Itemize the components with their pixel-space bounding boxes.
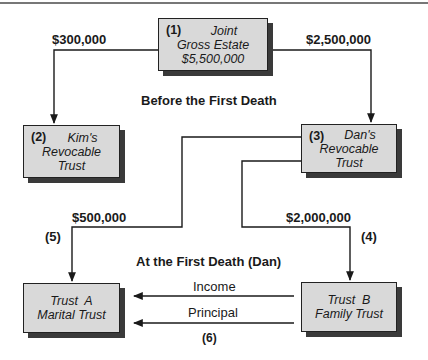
section-before-first-death: Before the First Death (141, 93, 277, 108)
edge-joint-to-dan (268, 50, 371, 122)
node-number: (1) (166, 23, 181, 37)
node-trust-b-family: Trust B Family Trust (301, 282, 397, 332)
amount-300000: $300,000 (52, 32, 106, 47)
principal-label: Principal (188, 305, 238, 320)
step-4: (4) (361, 229, 377, 244)
amount-500000: $500,000 (72, 210, 126, 225)
step-5: (5) (45, 229, 61, 244)
section-at-first-death: At the First Death (Dan) (136, 254, 281, 269)
node-dans-revocable-trust: (3) Dan's Revocable Trust (301, 124, 397, 173)
amount-2000000: $2,000,000 (286, 210, 351, 225)
node-number: (3) (309, 129, 324, 143)
amount-2500000: $2,500,000 (306, 32, 371, 47)
step-6: (6) (202, 331, 217, 345)
node-trust-a-marital: Trust A Marital Trust (23, 283, 120, 333)
node-kims-revocable-trust: (2) Kim's Revocable Trust (23, 125, 120, 178)
node-number: (2) (31, 130, 46, 144)
node-joint-gross-estate: (1) Joint Gross Estate $5,500,000 (158, 18, 268, 71)
edge-joint-to-kim (54, 50, 158, 123)
income-label: Income (193, 279, 236, 294)
